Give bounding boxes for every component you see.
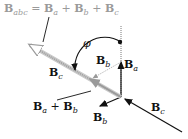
Ba-plus-Bb-label: Ba + Bb bbox=[33, 101, 78, 115]
Bb-lower-label: Bb bbox=[93, 112, 107, 126]
sum-leader bbox=[57, 91, 91, 100]
Bc-left-label: Bc bbox=[49, 67, 63, 81]
title-equation: Babc = Ba + Bb + Bc bbox=[4, 3, 119, 17]
Ba-label: Ba bbox=[124, 59, 138, 73]
phi-label: φ bbox=[83, 38, 91, 49]
Bb-arrow bbox=[100, 97, 121, 106]
Ba-plus-Bb-arrow bbox=[90, 79, 121, 97]
title-leader bbox=[43, 17, 49, 42]
arc-origin-dot bbox=[118, 40, 122, 44]
phasor-diagram: Babc = Ba + Bb + Bc φ Bb Ba Bc Ba + Bb B… bbox=[0, 0, 188, 139]
Bc-right-label: Bc bbox=[151, 102, 165, 116]
Bb-upper-label: Bb bbox=[96, 55, 110, 69]
